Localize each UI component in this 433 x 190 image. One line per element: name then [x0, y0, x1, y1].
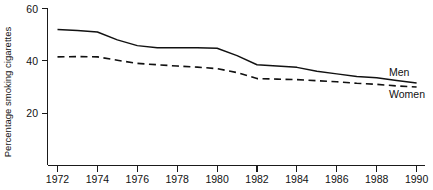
x-tick-label-1984: 1984 — [285, 173, 309, 185]
series-line-men — [58, 29, 417, 83]
y-axis-title: Percentage smoking cigarettes — [2, 27, 13, 158]
series-line-women — [58, 57, 417, 87]
x-tick-label-1986: 1986 — [325, 173, 349, 185]
series-label-women: Women — [389, 88, 425, 100]
x-tick-label-1980: 1980 — [205, 173, 229, 185]
y-tick-label-40: 40 — [26, 55, 38, 67]
x-tick-label-1974: 1974 — [86, 173, 110, 185]
y-tick-label-60: 60 — [26, 3, 38, 15]
series-label-men: Men — [389, 66, 410, 78]
y-tick-label-20: 20 — [26, 107, 38, 119]
x-tick-label-1988: 1988 — [365, 173, 389, 185]
x-tick-label-1972: 1972 — [46, 173, 70, 185]
chart-figure: Percentage smoking cigarettes 60 40 20 1… — [0, 0, 433, 190]
x-tick-label-1978: 1978 — [166, 173, 190, 185]
x-tick-label-1976: 1976 — [126, 173, 150, 185]
x-tick-label-1990: 1990 — [405, 173, 429, 185]
x-tick-label-1982: 1982 — [245, 173, 269, 185]
line-chart: Percentage smoking cigarettes 60 40 20 1… — [0, 0, 433, 190]
